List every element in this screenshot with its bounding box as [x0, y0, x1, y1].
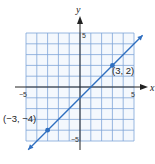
point-label-b: (3, 2)	[112, 65, 134, 76]
y-axis-label: y	[75, 4, 81, 15]
y-tick-min: −5	[71, 136, 79, 143]
x-axis-label: x	[149, 82, 155, 93]
y-axis-arrow-icon	[77, 16, 83, 24]
coordinate-plane: x y −5 5 5 −5 (−3, −4) (3, 2)	[0, 0, 155, 164]
y-tick-max: 5	[82, 32, 86, 39]
point-label-a: (−3, −4)	[3, 113, 36, 124]
x-axis-arrow-icon	[140, 84, 148, 90]
x-tick-min: −5	[19, 91, 27, 98]
data-point	[45, 128, 50, 133]
x-tick-max: 5	[131, 91, 135, 98]
